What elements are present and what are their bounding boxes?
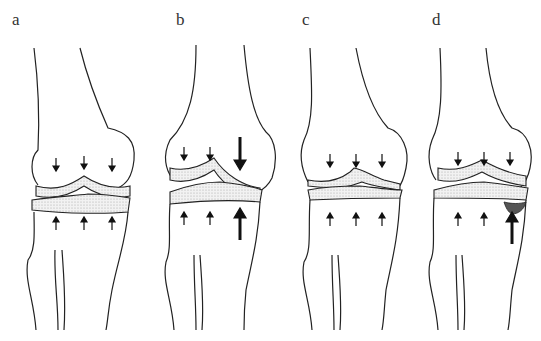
- knee-joint-asymmetric-load-illustration: [148, 0, 283, 341]
- up-arrows-icon: [53, 217, 115, 230]
- panel-b: b: [148, 0, 283, 341]
- panel-d: d: [420, 0, 541, 341]
- knee-joint-normal-illustration: [8, 0, 143, 341]
- knee-joint-degenerated-cartilage-illustration: [288, 0, 423, 341]
- down-arrows-icon: [53, 156, 115, 171]
- knee-joint-subchondral-lesion-illustration: [420, 0, 541, 341]
- panel-a: a: [8, 0, 143, 341]
- subchondral-lesion-icon: [504, 202, 526, 214]
- panel-c: c: [288, 0, 423, 341]
